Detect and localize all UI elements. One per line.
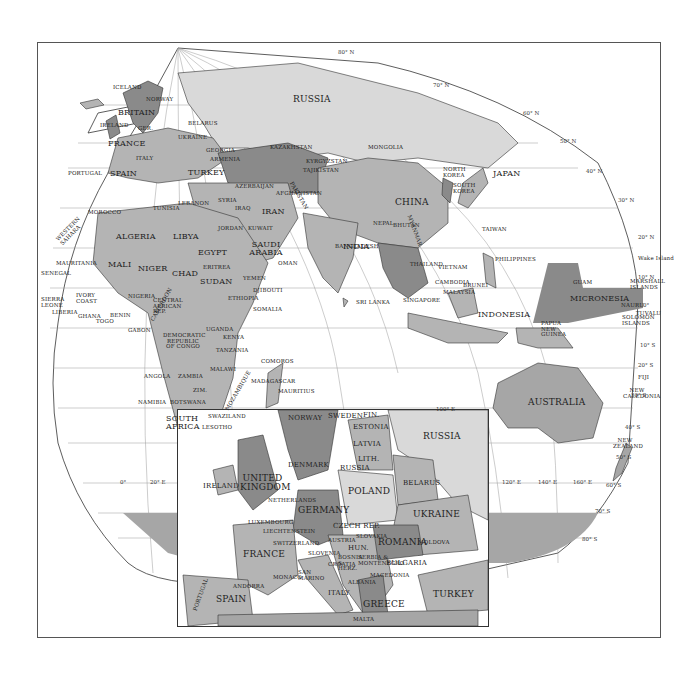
label-azerbaijan: AZERBAIJAN bbox=[235, 184, 274, 190]
inset-label-belarus: BELARUS bbox=[403, 480, 440, 487]
inset-turkey bbox=[418, 560, 488, 615]
label-nauru: NAURU bbox=[621, 303, 644, 309]
inset-label-poland: POLAND bbox=[348, 487, 390, 496]
lon-label-20e: 20° E bbox=[150, 480, 166, 486]
label-kyrgyzstan: KYRGYZSTAN bbox=[306, 159, 347, 165]
inset-label-albania: ALBANIA bbox=[348, 580, 376, 586]
label-congo: DEMOCRATIC REPUBLIC OF CONGO bbox=[163, 333, 203, 350]
label-indonesia: INDONESIA bbox=[478, 311, 530, 319]
label-jordan: JORDAN bbox=[218, 226, 243, 232]
label-zimbabwe: ZIM. bbox=[193, 388, 207, 394]
label-singapore: SINGAPORE bbox=[403, 298, 440, 304]
label-sudan: SUDAN bbox=[200, 278, 232, 286]
label-uganda: UGANDA bbox=[206, 327, 233, 333]
label-ethiopia: ETHIOPIA bbox=[228, 296, 259, 302]
lon-label-0: 0° bbox=[120, 480, 126, 486]
label-fiji: FIJI bbox=[638, 375, 649, 381]
inset-label-united-kingdom: UNITED KINGDOM bbox=[240, 474, 285, 492]
label-kazakhstan: KAZAKHSTAN bbox=[270, 145, 312, 151]
label-eritrea: ERITREA bbox=[203, 265, 231, 271]
label-new-zealand: NEW ZEALAND bbox=[613, 438, 637, 449]
label-ivory-coast: IVORY COAST bbox=[76, 293, 94, 304]
label-comoros: COMOROS bbox=[261, 359, 294, 365]
label-guam: GUAM bbox=[573, 280, 592, 286]
lat-label-80s: 80° S bbox=[582, 537, 597, 543]
label-syria: SYRIA bbox=[218, 198, 237, 204]
label-taiwan: TAIWAN bbox=[482, 227, 507, 233]
lat-label-10s: 10° S bbox=[640, 343, 655, 349]
label-japan: JAPAN bbox=[493, 170, 520, 178]
lon-label-160e: 160° E bbox=[573, 480, 592, 486]
label-marshall-islands: MARSHALL ISLANDS bbox=[630, 279, 654, 290]
label-turkey: TURKEY bbox=[188, 169, 224, 177]
map-frame: NORWAY SWEDEN FIN. ESTONIA LATVIA LITH. … bbox=[37, 42, 661, 638]
label-mauritania: MAURITANIA bbox=[56, 261, 97, 267]
label-liberia: LIBERIA bbox=[52, 310, 78, 316]
inset-label-sweden: SWEDEN bbox=[328, 413, 363, 420]
label-russia: RUSSIA bbox=[293, 95, 331, 104]
inset-label-czech-rep: CZECH REP. bbox=[333, 523, 380, 530]
label-tajikistan: TAJIKISTAN bbox=[303, 168, 339, 174]
label-saudi-arabia: SAUDI ARABIA bbox=[246, 241, 286, 257]
inset-label-finland: FIN. bbox=[363, 412, 379, 419]
label-papua-new-guinea: PAPUA NEW GUINEA bbox=[541, 321, 561, 338]
lat-label-60s: 60° S bbox=[606, 483, 621, 489]
label-belarus: BELARUS bbox=[188, 121, 218, 127]
inset-label-austria: AUSTRIA bbox=[328, 538, 356, 544]
inset-label-moldova: MOLDOVA bbox=[418, 540, 450, 546]
label-benin: BENIN bbox=[110, 313, 131, 319]
inset-label-luxembourg: LUXEMBOURG bbox=[248, 520, 293, 526]
lat-label-80n: 80° N bbox=[338, 50, 354, 56]
label-solomon-islands: SOLOMON ISLANDS bbox=[622, 315, 650, 326]
lat-label-40n: 40° N bbox=[586, 169, 602, 175]
label-afghanistan: AFGHANISTAN bbox=[276, 191, 300, 197]
label-britain: BRITAIN bbox=[118, 109, 155, 117]
inset-label-switzerland: SWITZERLAND bbox=[273, 541, 319, 547]
inset-label-norway: NORWAY bbox=[288, 415, 322, 422]
label-central-african-rep: CENTRAL AFRICAN REP. bbox=[153, 298, 181, 315]
inset-label-spain: SPAIN bbox=[216, 595, 246, 604]
inset-label-hungary: HUN. bbox=[348, 545, 369, 552]
label-senegal: SENEGAL bbox=[41, 271, 71, 277]
label-italy: ITALY bbox=[136, 156, 153, 162]
label-nepal: NEPAL bbox=[373, 221, 394, 227]
label-tunisia: TUNISIA bbox=[153, 206, 180, 212]
label-swaziland: SWAZILAND bbox=[208, 414, 246, 420]
label-kuwait: KUWAIT bbox=[248, 226, 273, 232]
label-mongolia: MONGOLIA bbox=[368, 145, 403, 151]
label-somalia: SOMALIA bbox=[253, 307, 282, 313]
label-brunei: BRUNEI bbox=[463, 283, 488, 289]
label-malaysia: MALAYSIA bbox=[443, 290, 475, 296]
lat-label-50n: 50° N bbox=[560, 139, 576, 145]
inset-label-greece: GREECE bbox=[363, 600, 405, 609]
label-angola: ANGOLA bbox=[144, 374, 171, 380]
label-togo: TOGO bbox=[96, 319, 114, 325]
inset-label-russia-kaliningrad: RUSSIA bbox=[340, 465, 370, 472]
label-nigeria: NIGERIA bbox=[128, 294, 155, 300]
label-iran: IRAN bbox=[262, 208, 285, 216]
label-zambia: ZAMBIA bbox=[178, 374, 203, 380]
inset-label-france: FRANCE bbox=[243, 550, 285, 559]
lat-label-30n: 30° N bbox=[618, 198, 634, 204]
label-kenya: KENYA bbox=[223, 335, 244, 341]
label-south-korea: SOUTH KOREA bbox=[453, 183, 477, 194]
label-australia: AUSTRALIA bbox=[528, 398, 585, 407]
inset-label-latvia: LATVIA bbox=[353, 441, 381, 448]
inset-label-ukraine: UKRAINE bbox=[413, 510, 460, 519]
label-france: FRANCE bbox=[108, 140, 146, 148]
inset-north-africa bbox=[218, 610, 478, 626]
inset-label-bulgaria: BULGARIA bbox=[386, 560, 427, 567]
label-sri-lanka: SRI LANKA bbox=[356, 300, 390, 306]
label-gabon: GABON bbox=[128, 328, 151, 334]
label-ukraine: UKRAINE bbox=[178, 135, 207, 141]
label-norway: NORWAY bbox=[146, 97, 173, 103]
lat-label-20n: 20° N bbox=[638, 235, 654, 241]
iceland-shape bbox=[80, 99, 104, 109]
label-libya: LIBYA bbox=[173, 233, 199, 241]
label-portugal: PORTUGAL bbox=[68, 171, 102, 177]
label-micronesia: MICRONESIA bbox=[570, 295, 629, 303]
label-iceland: ICELAND bbox=[113, 85, 142, 91]
lon-label-140e: 140° E bbox=[538, 480, 557, 486]
label-tanzania: TANZANIA bbox=[216, 348, 249, 354]
label-niger: NIGER bbox=[138, 265, 167, 273]
